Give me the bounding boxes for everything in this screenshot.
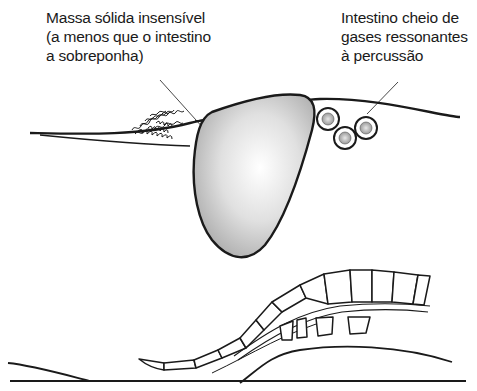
diagram-drawing — [0, 0, 477, 391]
spine — [139, 270, 430, 373]
solid-mass-shape — [194, 94, 315, 257]
skin-texture-icon — [132, 110, 184, 139]
gas-bowel-loops — [317, 108, 377, 149]
abdominal-cross-section-diagram: Massa sólida insensível (a menos que o i… — [0, 0, 477, 391]
gas-bowel-leader-line — [367, 82, 398, 114]
